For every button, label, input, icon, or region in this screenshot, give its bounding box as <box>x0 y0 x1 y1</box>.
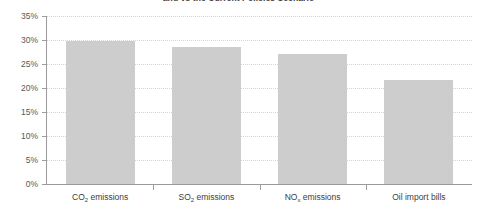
y-axis-tick <box>42 184 46 185</box>
bar-chart: and vs the Current Policies Scenario 0%5… <box>0 0 477 213</box>
y-axis-tick-label: 35% <box>0 12 38 21</box>
y-axis-tick-label: 5% <box>0 156 38 165</box>
y-axis-tick <box>42 160 46 161</box>
bar <box>66 41 135 184</box>
chart-title: and vs the Current Policies Scenario <box>0 0 477 2</box>
y-axis-tick-label: 15% <box>0 108 38 117</box>
y-axis-line <box>46 16 47 185</box>
bar <box>278 54 347 184</box>
bar <box>172 47 241 184</box>
y-axis-tick <box>42 112 46 113</box>
y-axis-tick <box>42 40 46 41</box>
y-axis-tick <box>42 64 46 65</box>
y-axis-tick-label: 30% <box>0 36 38 45</box>
x-axis-category-label: Oil import bills <box>366 192 472 202</box>
x-axis-category-label: SO2 emissions <box>153 192 259 203</box>
x-axis-separator-tick <box>260 185 261 190</box>
x-axis-category-label: CO2 emissions <box>47 192 153 203</box>
x-axis-separator-tick <box>366 185 367 190</box>
y-axis-tick-label: 25% <box>0 60 38 69</box>
x-axis-category-label: NOx emissions <box>260 192 366 203</box>
y-axis-tick-label: 0% <box>0 180 38 189</box>
plot-area <box>47 16 472 184</box>
y-axis-tick <box>42 136 46 137</box>
y-axis-tick-label: 20% <box>0 84 38 93</box>
y-axis-tick <box>42 16 46 17</box>
bar <box>384 80 453 184</box>
y-axis-tick <box>42 88 46 89</box>
x-axis-separator-tick <box>153 185 154 190</box>
gridline <box>47 16 472 17</box>
y-axis-tick-label: 10% <box>0 132 38 141</box>
